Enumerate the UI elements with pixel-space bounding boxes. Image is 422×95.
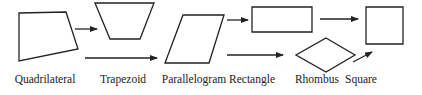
label-rectangle: Rectangle	[229, 73, 275, 85]
trapezoid-shape	[95, 3, 154, 39]
square-shape	[366, 7, 403, 44]
quadrilateral-hierarchy-diagram: Quadrilateral Trapezoid Parallelogram Re…	[0, 0, 422, 95]
parallelogram-shape	[165, 15, 224, 63]
shapes-layer	[19, 3, 403, 72]
label-trapezoid: Trapezoid	[100, 73, 146, 85]
label-parallelogram: Parallelogram	[162, 73, 227, 85]
label-square: Square	[345, 73, 377, 85]
arrows-layer	[75, 19, 372, 62]
rhombus-shape	[296, 38, 355, 72]
quadrilateral-shape	[19, 12, 78, 61]
arrow-rhombus-to-square-icon	[353, 52, 372, 62]
rectangle-shape	[252, 7, 312, 32]
label-rhombus: Rhombus	[295, 73, 339, 85]
label-quadrilateral: Quadrilateral	[15, 73, 76, 85]
